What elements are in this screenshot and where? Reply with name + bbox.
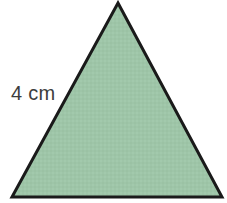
side-length-label: 4 cm [11,80,63,106]
geometry-figure-canvas: 4 cm [0,0,227,203]
